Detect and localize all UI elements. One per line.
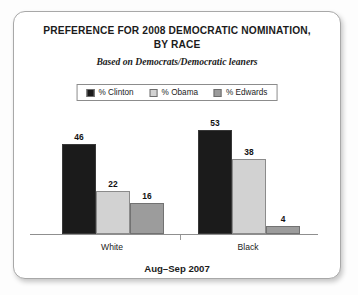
bar-value-white-edwards: 16 xyxy=(142,192,151,201)
chart-title-line-1: PREFERENCE FOR 2008 DEMOCRATIC NOMINATIO… xyxy=(14,24,340,38)
plot-area: 46 22 16 53 xyxy=(44,116,316,234)
legend-label-clinton: % Clinton xyxy=(99,88,134,97)
bar-groups: 46 22 16 53 xyxy=(44,116,316,234)
bar-slot-black-clinton: 53 xyxy=(198,116,232,234)
legend-swatch-edwards xyxy=(214,89,222,97)
bar-black-obama xyxy=(232,159,266,234)
bar-group-white: 46 22 16 xyxy=(44,116,180,234)
category-label-black: Black xyxy=(180,242,316,252)
chart-subtitle: Based on Democrats/Democratic leaners xyxy=(14,56,340,67)
chart-caption: Aug–Sep 2007 xyxy=(14,263,340,274)
bar-black-clinton xyxy=(198,130,232,234)
bar-value-black-edwards: 4 xyxy=(281,215,286,224)
bar-white-clinton xyxy=(62,144,96,234)
bar-value-black-clinton: 53 xyxy=(210,119,219,128)
bar-value-black-obama: 38 xyxy=(244,148,253,157)
chart-title-line-2: BY RACE xyxy=(14,38,340,52)
bar-slot-white-clinton: 46 xyxy=(62,116,96,234)
legend-item-obama: % Obama xyxy=(150,88,198,97)
bar-group-black: 53 38 4 xyxy=(180,116,316,234)
bar-slot-white-edwards: 16 xyxy=(130,116,164,234)
bar-slot-white-obama: 22 xyxy=(96,116,130,234)
x-axis-line xyxy=(30,234,318,235)
legend-label-obama: % Obama xyxy=(162,88,198,97)
bar-black-edwards xyxy=(266,226,300,234)
bar-white-obama xyxy=(96,191,130,234)
x-axis-tick xyxy=(180,235,181,240)
category-labels: White Black xyxy=(44,242,316,252)
bar-slot-black-edwards: 4 xyxy=(266,116,300,234)
legend-swatch-obama xyxy=(150,89,158,97)
legend-swatch-clinton xyxy=(87,89,95,97)
bar-value-white-clinton: 46 xyxy=(74,133,83,142)
legend-item-edwards: % Edwards xyxy=(214,88,267,97)
category-label-white: White xyxy=(44,242,180,252)
chart-figure: PREFERENCE FOR 2008 DEMOCRATIC NOMINATIO… xyxy=(0,0,358,295)
chart-legend: % Clinton % Obama % Edwards xyxy=(77,84,278,101)
chart-panel: PREFERENCE FOR 2008 DEMOCRATIC NOMINATIO… xyxy=(13,11,341,279)
bar-white-edwards xyxy=(130,203,164,234)
chart-header: PREFERENCE FOR 2008 DEMOCRATIC NOMINATIO… xyxy=(14,24,340,67)
bar-slot-black-obama: 38 xyxy=(232,116,266,234)
legend-item-clinton: % Clinton xyxy=(87,88,134,97)
bar-value-white-obama: 22 xyxy=(108,180,117,189)
legend-label-edwards: % Edwards xyxy=(226,88,267,97)
